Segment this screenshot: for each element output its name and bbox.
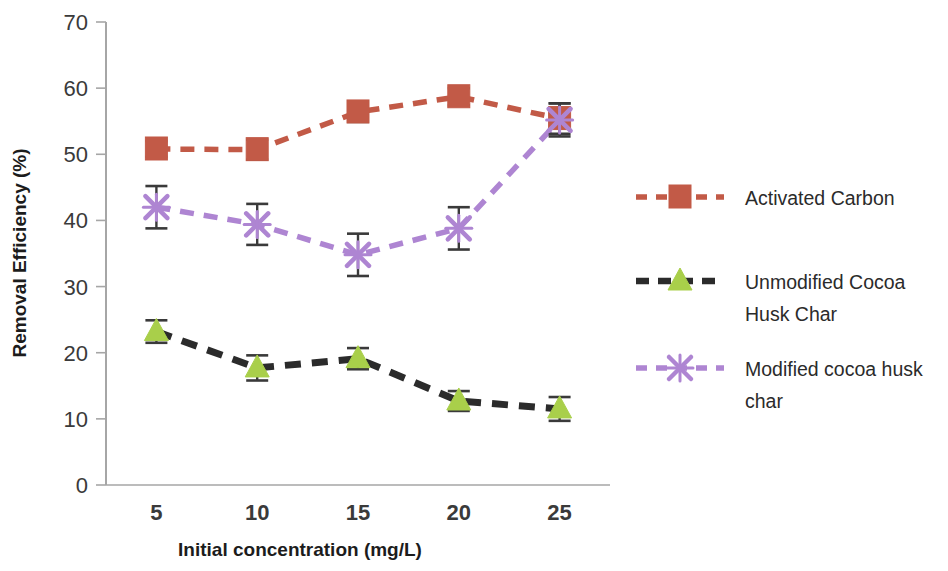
x-tick-label: 15 (346, 500, 370, 525)
x-tick-label: 25 (547, 500, 571, 525)
y-tick-label: 60 (64, 76, 88, 101)
y-axis-title: Removal Efficiency (%) (9, 148, 30, 357)
data-series-layer (143, 85, 572, 421)
legend-marker (667, 355, 693, 381)
y-tick-label: 20 (64, 341, 88, 366)
legend-entry-3: Modified cocoa huskchar (636, 355, 923, 412)
x-axis-title: Initial concentration (mg/L) (178, 539, 422, 560)
x-axis-ticks: 510152025 (150, 500, 572, 525)
legend-label: Unmodified Cocoa (745, 271, 906, 293)
y-tick-label: 30 (64, 275, 88, 300)
data-point-marker (143, 194, 169, 220)
y-tick-label: 70 (64, 10, 88, 35)
y-tick-label: 0 (76, 473, 88, 498)
removal-efficiency-line-chart: 010203040506070 510152025 Initial concen… (0, 0, 948, 571)
data-point-marker (547, 107, 573, 133)
y-tick-label: 40 (64, 208, 88, 233)
x-tick-label: 5 (150, 500, 162, 525)
legend-label: char (745, 390, 783, 412)
legend-label: Activated Carbon (745, 187, 895, 209)
chart-figure: 010203040506070 510152025 Initial concen… (0, 0, 948, 571)
data-point-marker (446, 215, 472, 241)
y-axis-ticks: 010203040506070 (64, 10, 106, 498)
data-point-marker (448, 85, 470, 108)
data-point-marker (345, 242, 371, 268)
data-point-marker (145, 137, 167, 160)
legend-label: Husk Char (745, 303, 838, 325)
data-point-marker (244, 211, 270, 237)
y-tick-label: 10 (64, 407, 88, 432)
x-tick-label: 20 (447, 500, 471, 525)
legend-label: Modified cocoa husk (745, 358, 923, 380)
legend-marker (669, 185, 691, 208)
data-point-marker (144, 319, 168, 341)
x-tick-label: 10 (245, 500, 269, 525)
legend-entry-2: Unmodified CocoaHusk Char (636, 268, 906, 325)
chart-legend: Activated CarbonUnmodified CocoaHusk Cha… (636, 185, 923, 412)
series-3-markers (143, 107, 572, 268)
legend-entry-1: Activated Carbon (636, 185, 895, 209)
data-point-marker (347, 100, 369, 123)
y-tick-label: 50 (64, 142, 88, 167)
data-point-marker (246, 138, 268, 161)
